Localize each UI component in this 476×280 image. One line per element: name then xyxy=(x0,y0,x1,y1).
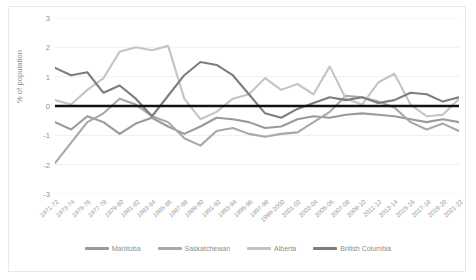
y-axis-title: % of population xyxy=(15,32,24,122)
y-tick-label: -3 xyxy=(43,190,50,199)
series-line xyxy=(55,62,459,118)
legend-swatch-icon xyxy=(85,247,109,249)
legend-label: Manitoba xyxy=(112,245,141,252)
legend-label: British Columbia xyxy=(340,245,391,252)
y-tick-label: 1 xyxy=(46,72,50,81)
y-tick-label: 3 xyxy=(46,14,50,23)
y-tick-label: -2 xyxy=(43,160,50,169)
series-line xyxy=(55,46,459,119)
legend-swatch-icon xyxy=(247,247,271,249)
series-line xyxy=(55,113,459,134)
legend-item[interactable]: British Columbia xyxy=(313,245,391,252)
series-canvas xyxy=(55,18,459,194)
y-tick-label: 2 xyxy=(46,43,50,52)
legend-label: Saskatchewan xyxy=(185,245,231,252)
legend-item[interactable]: Manitoba xyxy=(85,245,141,252)
legend-item[interactable]: Saskatchewan xyxy=(158,245,231,252)
y-tick-label: -1 xyxy=(43,131,50,140)
chart-legend: ManitobaSaskatchewanAlbertaBritish Colum… xyxy=(0,245,476,252)
plot-area: 3210-1-2-3 1971-721973-741975-761977-781… xyxy=(55,18,459,194)
y-tick-label: 0 xyxy=(46,102,50,111)
legend-item[interactable]: Alberta xyxy=(247,245,296,252)
legend-label: Alberta xyxy=(274,245,296,252)
migration-line-chart: % of population 3210-1-2-3 1971-721973-7… xyxy=(0,0,476,280)
legend-swatch-icon xyxy=(158,247,182,249)
legend-swatch-icon xyxy=(313,247,337,249)
